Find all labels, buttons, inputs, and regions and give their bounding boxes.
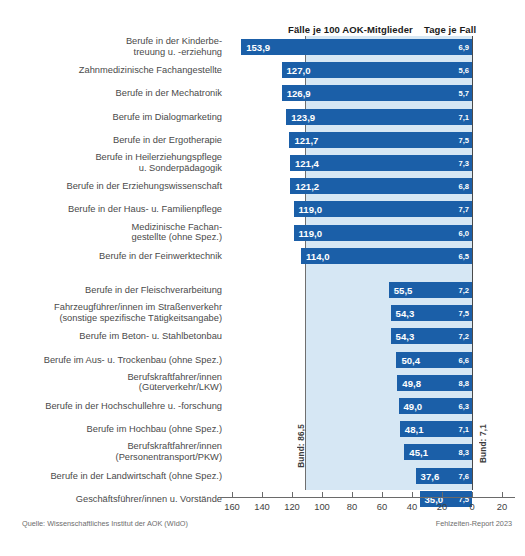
tage-value-label: 5,6 (458, 66, 469, 75)
chart-row: Berufe im Aus- u. Trockenbau (ohne Spez.… (0, 352, 525, 368)
tage-value-label: 6,9 (458, 43, 469, 52)
x-axis-tick-label: 40 (407, 501, 417, 512)
bar-value-label: 45,1 (409, 447, 428, 458)
bar: 50,46,6 (396, 352, 472, 368)
chart-row: Berufe im Dialogmarketing123,97,1 (0, 109, 525, 125)
bar: 121,47,3 (290, 155, 472, 171)
x-axis-tick (442, 492, 443, 498)
bar-value-label: 121,4 (295, 158, 319, 169)
chart-row: Berufe im Hochbau (ohne Spez.)48,17,1 (0, 421, 525, 437)
chart-row: Berufe in Heilerziehungspflege u. Sonder… (0, 155, 525, 171)
bar-value-label: 54,3 (396, 308, 415, 319)
tage-value-label: 7,6 (458, 471, 469, 480)
chart-row: Fahrzeugführer/innen im Straßenverkehr (… (0, 305, 525, 321)
bar-value-label: 123,9 (291, 111, 315, 122)
bar: 127,05,6 (282, 62, 473, 78)
category-label: Berufe im Aus- u. Trockenbau (ohne Spez.… (0, 354, 222, 365)
tage-value-label: 6,6 (458, 355, 469, 364)
category-label: Berufe in der Hochschullehre u. -forschu… (0, 401, 222, 412)
bar: 121,26,8 (290, 178, 472, 194)
bar: 119,06,0 (294, 225, 473, 241)
tage-value-label: 6,5 (458, 251, 469, 260)
bar: 121,77,5 (289, 132, 472, 148)
tage-value-label: 8,8 (458, 378, 469, 387)
faelle-column-header: Fälle je 100 AOK-Mitglieder (288, 24, 413, 35)
category-label: Berufe in der Mechatronik (0, 88, 222, 99)
bar-value-label: 121,7 (294, 134, 318, 145)
bar: 49,88,8 (397, 375, 472, 391)
chart-row: Zahnmedizinische Fachangestellte127,05,6 (0, 62, 525, 78)
tage-value-label: 6,8 (458, 182, 469, 191)
bar-value-label: 49,0 (404, 401, 423, 412)
bar: 126,95,7 (282, 85, 472, 101)
bar: 49,06,3 (399, 398, 473, 414)
bund-label-tage: Bund: 7,1 (479, 424, 488, 463)
x-axis-tick (292, 492, 293, 498)
category-label: Berufe in der Landwirtschaft (ohne Spez.… (0, 470, 222, 481)
bar-value-label: 37,6 (421, 470, 440, 481)
bar: 123,97,1 (286, 109, 472, 125)
category-label: Berufe in der Kinderbe- treuung u. -erzi… (0, 36, 222, 57)
x-axis-tick (262, 492, 263, 498)
chart-row: Berufe in der Mechatronik126,95,7 (0, 85, 525, 101)
x-axis-tick (502, 492, 503, 498)
x-axis-tick (472, 492, 473, 498)
x-axis-tick-label: 20 (497, 501, 507, 512)
report-note: Fehlzeiten-Report 2023 (436, 519, 512, 528)
category-label: Fahrzeugführer/innen im Straßenverkehr (… (0, 303, 222, 324)
category-label: Berufskraftfahrer/innen (Güterverkehr/LK… (0, 372, 222, 393)
category-label: Berufe in der Erziehungswissenschaft (0, 181, 222, 192)
bar-value-label: 114,0 (306, 250, 329, 261)
x-axis-tick-label: 160 (224, 501, 240, 512)
chart-row: Berufe in der Hochschullehre u. -forschu… (0, 398, 525, 414)
bar: 45,18,3 (404, 444, 472, 460)
bund-label-faelle: Bund: 86,5 (297, 424, 306, 468)
tage-value-label: 7,5 (458, 135, 469, 144)
x-axis-tick-label: 0 (469, 501, 474, 512)
tage-value-label: 7,3 (458, 159, 469, 168)
x-axis-tick-label: 20 (437, 501, 447, 512)
chart-row: Berufe in der Ergotherapie121,77,5 (0, 132, 525, 148)
bar: 54,37,5 (391, 305, 472, 321)
category-label: Berufe in der Ergotherapie (0, 135, 222, 146)
category-label: Medizinische Fachan- gestellte (ohne Spe… (0, 222, 222, 243)
tage-value-label: 7,1 (458, 425, 469, 434)
category-label: Berufe in der Haus- u. Familienpflege (0, 204, 222, 215)
bar: 114,06,5 (301, 248, 472, 264)
category-label: Berufe im Beton- u. Stahlbetonbau (0, 331, 222, 342)
tage-value-label: 7,7 (458, 205, 469, 214)
x-axis-tick-label: 120 (284, 501, 300, 512)
bar-value-label: 126,9 (287, 88, 311, 99)
chart-row: Medizinische Fachan- gestellte (ohne Spe… (0, 225, 525, 241)
bar: 48,17,1 (400, 421, 472, 437)
bar-value-label: 54,3 (396, 331, 415, 342)
chart-row: Berufskraftfahrer/innen (Güterverkehr/LK… (0, 375, 525, 391)
chart-row: Berufe in der Erziehungswissenschaft121,… (0, 178, 525, 194)
category-label: Berufe im Dialogmarketing (0, 111, 222, 122)
tage-value-label: 5,7 (458, 89, 469, 98)
x-axis-tick-label: 80 (347, 501, 357, 512)
bar-value-label: 119,0 (299, 204, 322, 215)
x-axis-tick-label: 60 (377, 501, 387, 512)
category-label: Berufe in der Feinwerktechnik (0, 251, 222, 262)
tage-value-label: 8,3 (458, 448, 469, 457)
plot-area: Berufe in der Kinderbe- treuung u. -erzi… (0, 36, 525, 491)
bar-value-label: 119,0 (299, 227, 322, 238)
x-axis-tick (322, 492, 323, 498)
bar: 153,96,9 (241, 39, 472, 55)
category-label: Zahnmedizinische Fachangestellte (0, 65, 222, 76)
x-axis-tick (382, 492, 383, 498)
bar-value-label: 127,0 (287, 65, 311, 76)
tage-value-label: 6,3 (458, 402, 469, 411)
chart-row: Berufe in der Landwirtschaft (ohne Spez.… (0, 468, 525, 484)
x-axis-tick (352, 492, 353, 498)
tage-column-header: Tage je Fall (424, 24, 476, 35)
x-axis-tick-label: 140 (254, 501, 270, 512)
bar-value-label: 50,4 (401, 354, 420, 365)
bar-value-label: 55,5 (394, 285, 413, 296)
chart-row: Berufskraftfahrer/innen (Personentranspo… (0, 444, 525, 460)
chart-container: Fälle je 100 AOK-Mitglieder Tage je Fall… (0, 0, 525, 556)
chart-row: Berufe in der Fleischverarbeitung55,57,2 (0, 282, 525, 298)
x-axis-tick (412, 492, 413, 498)
category-label: Berufe im Hochbau (ohne Spez.) (0, 424, 222, 435)
